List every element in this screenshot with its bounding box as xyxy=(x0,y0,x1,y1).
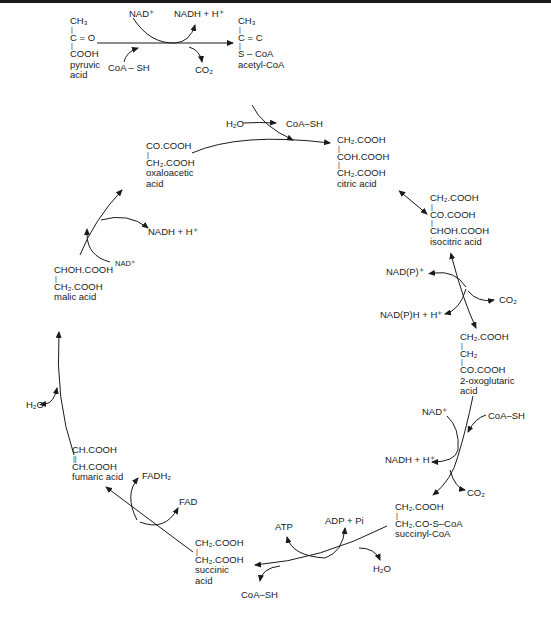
molecule-isocitric-acid: CH₂.COOH | CO.COOH | CHOH.COOH isocitric… xyxy=(430,193,489,247)
label-fum-h2o: H₂O xyxy=(26,399,44,410)
molecule-name: oxaloacetic xyxy=(146,168,195,179)
molecule-name: acid xyxy=(70,70,100,81)
formula-line: CH₂.COOH xyxy=(337,135,389,146)
molecule-name: isocitric acid xyxy=(430,237,489,248)
molecule-oxaloacetic-acid: CO.COOH | CH₂.COOH oxaloacetic acid xyxy=(146,141,195,189)
arrow-idh-nadp-in xyxy=(434,273,466,287)
formula-line: COH.COOH xyxy=(337,152,389,163)
label-cs-coash: CoA–SH xyxy=(286,118,323,129)
label-pdh-coash: CoA – SH xyxy=(108,62,150,73)
formula-line: CH₂ xyxy=(460,349,514,360)
reaction-arrows xyxy=(0,0,551,628)
arrow-scs-coash xyxy=(260,566,280,581)
label-pdh-nadh: NADH + H⁺ xyxy=(174,8,224,19)
formula-line: CO.COOH xyxy=(146,141,195,152)
arrow-pdh-nad xyxy=(133,18,195,43)
arrow-sdh-fadh2 xyxy=(131,478,138,520)
label-ogdh-coash: CoA–SH xyxy=(488,410,525,421)
arrow-idh-nadph-out xyxy=(445,289,466,314)
formula-line: CHOH.COOH xyxy=(54,265,113,276)
formula-line: CH₃ xyxy=(238,16,284,27)
arrow-pdh-coash xyxy=(124,48,138,62)
molecule-name: acetyl-CoA xyxy=(238,60,284,71)
molecule-name: succinyl-CoA xyxy=(395,529,463,540)
arrow-ogdh-coash xyxy=(468,415,486,432)
molecule-name: succinic xyxy=(195,565,244,576)
arrow-ogdh-nad xyxy=(432,416,458,462)
molecule-name: fumaric acid xyxy=(72,472,123,483)
arrow-fumarate-to-malate xyxy=(58,332,74,455)
molecule-citric-acid: CH₂.COOH | COH.COOH | CH₂.COOH citric ac… xyxy=(337,135,389,189)
molecule-name: acid xyxy=(195,576,244,587)
arrow-scs-adp xyxy=(325,528,345,558)
label-idh-nadp: NAD(P)⁺ xyxy=(386,266,424,277)
arrow-oxaloacetate-to-citrate xyxy=(192,139,330,153)
label-pdh-co2: CO₂ xyxy=(195,64,213,75)
formula-line: CO.COOH xyxy=(430,210,489,221)
arrow-isocitrate-to-oxoglutarate xyxy=(452,258,476,328)
arrow-fum-h2o xyxy=(45,388,57,404)
formula-line: S – C͏oA xyxy=(238,49,284,60)
arrow-pdh-co2 xyxy=(189,47,202,62)
formula-line: CH.COOH xyxy=(72,445,123,456)
formula-line: CHOH.COOH xyxy=(430,226,489,237)
molecule-succinic-acid: CH₂.COOH | CH₂.COOH succinic acid xyxy=(195,538,244,586)
label-cs-h2o: H₂O xyxy=(226,118,244,129)
label-ogdh-nadh: NADH + H⁺ xyxy=(385,454,435,465)
formula-line: CH₃ xyxy=(70,16,100,27)
label-sdh-fadh2: FADH₂ xyxy=(142,470,171,481)
label-ogdh-nad: NAD⁺ xyxy=(422,406,447,417)
formula-line: CH₂.COOH xyxy=(195,538,244,549)
label-scs-h2o: H₂O xyxy=(373,563,391,574)
label-pdh-nad: NAD⁺ xyxy=(129,8,154,19)
label-scs-coash: CoA–SH xyxy=(241,589,278,600)
formula-line: CO.COOH xyxy=(460,365,514,376)
molecule-fumaric-acid: CH.COOH || CH.COOH fumaric acid xyxy=(72,445,123,483)
molecule-name: acid xyxy=(146,179,195,190)
formula-line: CH₂.COOH xyxy=(460,332,514,343)
formula-line: CH₂.COOH xyxy=(395,502,463,513)
arrow-ogdh-co2 xyxy=(450,470,465,490)
label-scs-atp: ATP xyxy=(275,521,293,532)
formula-line: C = O xyxy=(70,33,100,44)
label-sdh-fad: FAD xyxy=(179,496,197,507)
label-mdh-nadh: NADH + H⁺ xyxy=(148,226,198,237)
arrow-malate-to-oxaloacetate xyxy=(80,190,122,255)
molecule-2-oxoglutaric-acid: CH₂.COOH | CH₂ | CO.COOH 2-oxoglutaric a… xyxy=(460,332,514,397)
arrow-citrate-isocitrate xyxy=(403,194,427,214)
formula-line: C = C xyxy=(238,33,284,44)
molecule-pyruvic-acid: CH₃ | C = O | COOH pyruvic acid xyxy=(70,16,100,81)
formula-line: CH₂.COOH xyxy=(337,168,389,179)
label-mdh-nad: NAD⁺ xyxy=(115,258,135,269)
molecule-succinyl-coa: CH₂.COOH | CH₂.CO-S–CoA succinyl-CoA xyxy=(395,502,463,540)
molecule-name: malic acid xyxy=(54,292,113,303)
arrow-scs-h2o xyxy=(359,548,380,560)
label-idh-nadph: NAD(P)H + H⁺ xyxy=(380,309,442,320)
label-ogdh-co2: CO₂ xyxy=(467,487,485,498)
arrow-mdh-nad xyxy=(101,217,148,228)
molecule-name: citric acid xyxy=(337,179,389,190)
arrow-mdh-nadh xyxy=(87,234,110,262)
formula-line: COOH xyxy=(70,49,100,60)
arrow-cs-h2o-coash xyxy=(243,123,276,124)
arrow-idh-co2 xyxy=(468,291,494,301)
arrow-scs-atp xyxy=(287,537,325,558)
label-idh-co2: CO₂ xyxy=(499,294,517,305)
molecule-name: acid xyxy=(460,386,514,397)
formula-line: CH₂.COOH xyxy=(430,193,489,204)
molecule-acetyl-coa: CH₃ | C = C | S – C͏oA acetyl-CoA xyxy=(238,16,284,70)
molecule-malic-acid: CHOH.COOH | CH₂.COOH malic acid xyxy=(54,265,113,303)
label-scs-adp: ADP + Pi xyxy=(325,515,364,526)
